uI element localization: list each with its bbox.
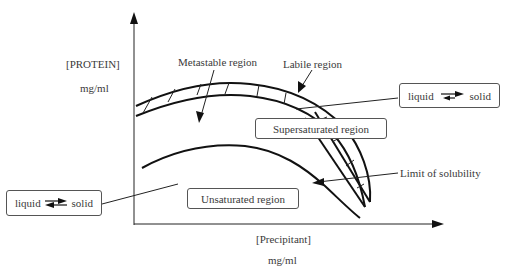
unsaturated-region-label: Unsaturated region (201, 193, 285, 205)
lower-equilibrium-leader (102, 184, 178, 204)
x-axis-label: [Precipitant] (256, 233, 311, 245)
labile-arrow-icon (298, 81, 306, 93)
upper-equilibrium-solid: solid (470, 90, 491, 102)
phase-diagram-canvas (0, 0, 506, 276)
upper-equilibrium-leader (296, 98, 398, 109)
labile-region-label: Labile region (283, 58, 342, 70)
unsaturated-region-box: Unsaturated region (187, 188, 299, 209)
supersolubility-curve-upper (136, 83, 370, 202)
lower-equilibrium-liquid: liquid (15, 197, 41, 209)
lower-equilibrium-solid: solid (72, 197, 93, 209)
reversible-equilibrium-arrow-icon (43, 197, 69, 209)
limit-of-solubility-label: Limit of solubility (400, 167, 481, 179)
labile-pointer (302, 70, 312, 86)
upper-equilibrium-box: liquid solid (399, 83, 500, 108)
lower-equilibrium-box: liquid solid (6, 190, 102, 216)
y-axis-unit: mg/ml (80, 82, 109, 94)
supersaturated-region-box: Supersaturated region (255, 118, 387, 139)
forward-equilibrium-arrow-icon (439, 90, 465, 102)
metastable-arrow-icon (196, 111, 204, 123)
metastable-pointer (201, 70, 214, 116)
upper-equilibrium-liquid: liquid (408, 90, 434, 102)
x-axis-unit: mg/ml (268, 254, 297, 266)
y-axis-arrow-icon (130, 12, 138, 24)
x-axis-arrow-icon (432, 220, 444, 228)
y-axis-label: [PROTEIN] (66, 58, 120, 70)
metastable-region-label: Metastable region (178, 56, 257, 68)
supersaturated-region-label: Supersaturated region (273, 123, 369, 135)
